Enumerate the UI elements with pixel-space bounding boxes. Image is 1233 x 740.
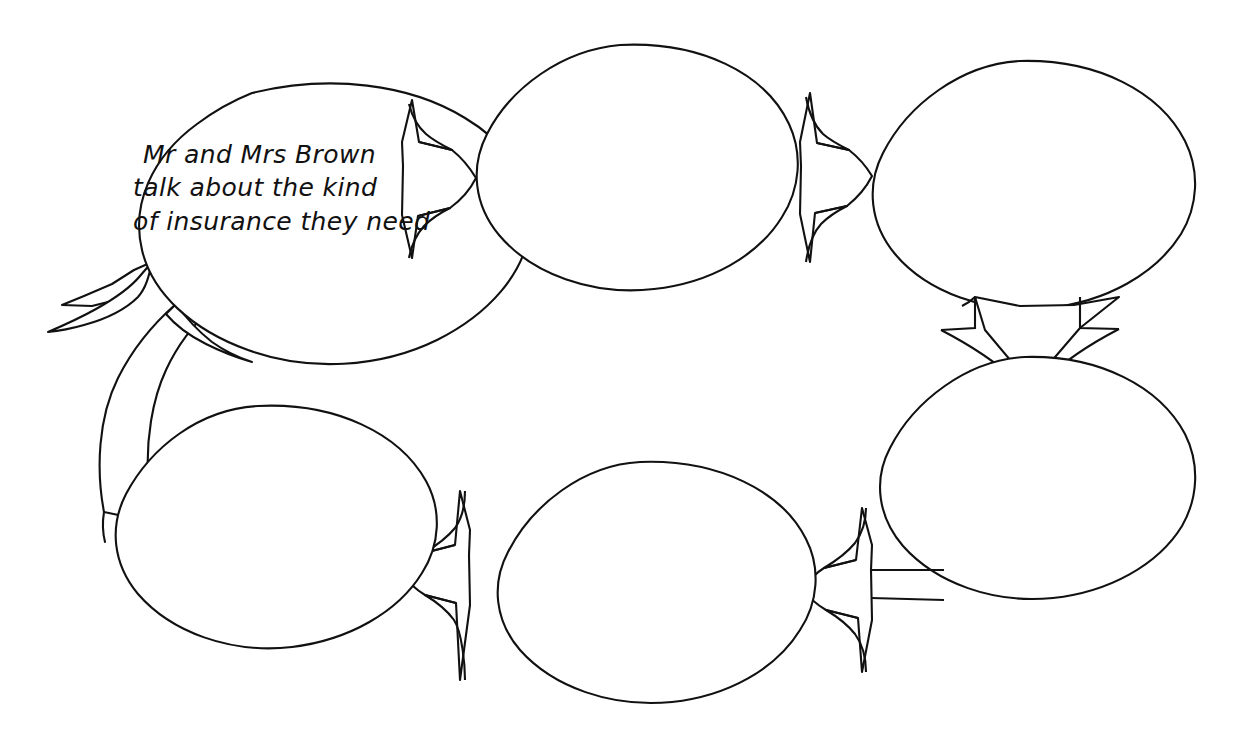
connector-arrow-top-middle-to-top-right[interactable] [800, 93, 872, 262]
bubble-node-6-bottom-left[interactable] [116, 406, 437, 649]
bubble-node-4-bottom-right[interactable] [880, 357, 1195, 599]
bubble-text-line-1: Mr and Mrs Brown [143, 140, 376, 169]
bubble-text-line-3: of insurance they need [133, 207, 430, 236]
bubble-node-5-bottom-middle[interactable] [498, 462, 816, 703]
bubble-node-2-top-middle[interactable] [477, 45, 798, 291]
cycle-diagram: Mr and Mrs Brown talk about the kind of … [0, 0, 1233, 740]
worksheet-canvas: Mr and Mrs Brown talk about the kind of … [0, 0, 1233, 740]
bubble-text-line-2: talk about the kind [133, 173, 377, 202]
bubble-node-3-top-right[interactable] [873, 61, 1195, 309]
